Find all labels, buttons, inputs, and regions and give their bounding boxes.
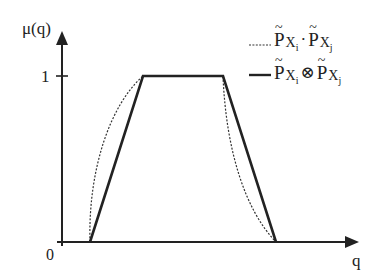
y-axis-label: μ(q) bbox=[22, 20, 51, 37]
legend-subscript-a: Xi bbox=[286, 69, 299, 83]
legend-symbol-a: ~P bbox=[274, 30, 285, 49]
y-axis-arrow-icon bbox=[56, 31, 68, 45]
x-axis-label: q bbox=[352, 252, 361, 269]
legend-symbol-b: ~P bbox=[317, 63, 328, 82]
tensor-product-trapezoid bbox=[90, 76, 276, 242]
legend-operator-otimes: ⊗ bbox=[300, 64, 314, 81]
legend-symbol-a: ~P bbox=[274, 63, 285, 82]
legend-subscript-b: Xj bbox=[328, 69, 341, 83]
y-tick-label-1: 1 bbox=[41, 68, 50, 85]
legend-operator-dot: · bbox=[300, 31, 306, 48]
legend-symbol-b: ~P bbox=[308, 30, 319, 49]
x-axis-arrow-icon bbox=[345, 236, 359, 248]
legend-subscript-a: Xi bbox=[286, 36, 299, 50]
legend-item-product: ~P Xi · ~P Xj bbox=[274, 30, 333, 49]
legend-subscript-b: Xj bbox=[320, 36, 333, 50]
y-tick-label-0: 0 bbox=[46, 247, 54, 263]
legend-item-tensor-product: ~P Xi ⊗ ~P Xj bbox=[274, 63, 341, 82]
